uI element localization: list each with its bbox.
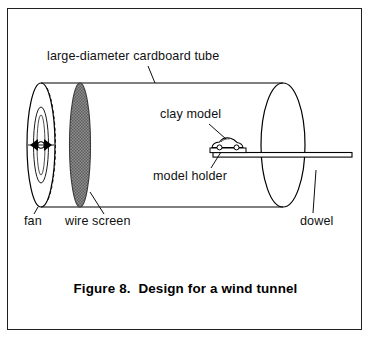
car-wheel-front: [217, 145, 222, 150]
leader-fan: [34, 207, 38, 214]
fan-assembly: [28, 107, 54, 183]
figure-container: large-diameter cardboard tube clay model…: [0, 0, 371, 345]
leader-wire-screen: [90, 192, 104, 214]
label-fan: fan: [24, 215, 42, 228]
model-holder: [210, 148, 246, 153]
tube-right-opening: [261, 83, 305, 207]
dowel-rod: [213, 153, 352, 158]
label-model-holder: model holder: [153, 170, 227, 183]
leader-clay-model: [209, 124, 226, 139]
figure-caption: Figure 8. Design for a wind tunnel: [0, 281, 371, 296]
label-dowel: dowel: [300, 215, 333, 228]
leader-dowel: [313, 170, 316, 213]
car-wheel-rear: [234, 145, 239, 150]
cardboard-tube: [27, 83, 305, 207]
label-cardboard-tube: large-diameter cardboard tube: [47, 50, 219, 63]
leader-tube: [148, 66, 155, 83]
label-wire-screen: wire screen: [65, 215, 131, 228]
label-clay-model: clay model: [160, 108, 221, 121]
wire-screen: [70, 83, 91, 207]
